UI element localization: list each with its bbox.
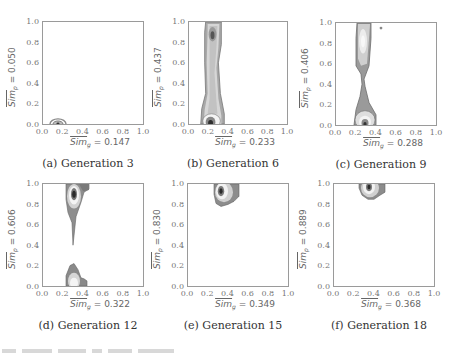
x-tick-label: 0.0: [31, 128, 53, 136]
x-tick-label: 0.6: [237, 290, 259, 298]
density-plot-b: [188, 21, 288, 125]
y-tick-label: 0.6: [163, 59, 185, 67]
y-tick-label: 0.2: [162, 262, 184, 270]
y-tick-label: 0.8: [163, 39, 185, 47]
y-tick-label: 0.6: [162, 221, 184, 229]
x-tick-label: 0.0: [31, 290, 53, 298]
x-tick-label: 0.2: [196, 290, 218, 298]
y-tick-label: 0.6: [17, 221, 39, 229]
x-tick-label: 0.6: [383, 290, 405, 298]
y-axis-label: Simp = 0.437: [153, 47, 164, 107]
y-tick-label: 0.2: [17, 262, 39, 270]
x-tick-label: 1.0: [423, 290, 445, 298]
y-axis-label: Simp = 0.889: [298, 209, 309, 269]
y-tick-label: 0.4: [308, 242, 330, 250]
subfigure-caption: (f) Generation 18: [304, 319, 454, 332]
y-tick-label: 0.8: [17, 39, 39, 47]
density-plot-a: [42, 21, 144, 125]
y-tick-label: 0.4: [163, 80, 185, 88]
y-tick-label: 0.4: [310, 81, 332, 89]
x-tick-label: 0.0: [324, 129, 346, 137]
x-tick-label: 0.6: [92, 128, 114, 136]
x-tick-label: 0.4: [217, 128, 239, 136]
subfigure-caption: (b) Generation 6: [158, 157, 308, 170]
x-tick-label: 0.4: [362, 290, 384, 298]
x-tick-label: 1.0: [425, 129, 447, 137]
x-tick-label: 0.8: [256, 128, 278, 136]
subfigure-caption: (e) Generation 15: [158, 319, 308, 332]
y-tick-label: 1.0: [162, 180, 184, 188]
x-axis-label: Simg = 0.349: [200, 299, 290, 310]
x-tick-label: 0.4: [216, 290, 238, 298]
y-tick-label: 1.0: [163, 18, 185, 26]
y-tick-label: 1.0: [17, 18, 39, 26]
density-plot-d: [42, 183, 144, 287]
y-tick-label: 1.0: [17, 180, 39, 188]
y-tick-label: 0.2: [310, 101, 332, 109]
subfigure-caption: (c) Generation 9: [306, 158, 455, 171]
x-tick-label: 1.0: [276, 128, 298, 136]
x-axis-label: Simg = 0.322: [55, 299, 145, 310]
truncated-figure-caption: [0, 349, 455, 353]
x-axis-label: Simg = 0.147: [55, 137, 145, 148]
x-tick-label: 0.6: [92, 290, 114, 298]
y-tick-label: 0.4: [17, 242, 39, 250]
y-tick-label: 0.2: [308, 262, 330, 270]
y-tick-label: 0.4: [162, 242, 184, 250]
y-tick-label: 1.0: [310, 19, 332, 27]
x-tick-label: 1.0: [132, 290, 154, 298]
x-tick-label: 1.0: [277, 290, 299, 298]
x-tick-label: 0.0: [322, 290, 344, 298]
y-axis-label: Simp = 0.606: [7, 209, 18, 269]
y-tick-label: 0.6: [308, 221, 330, 229]
x-tick-label: 0.4: [71, 128, 93, 136]
x-tick-label: 0.8: [405, 129, 427, 137]
x-tick-label: 0.0: [176, 290, 198, 298]
x-tick-label: 0.4: [364, 129, 386, 137]
x-tick-label: 0.8: [112, 128, 134, 136]
x-tick-label: 0.4: [71, 290, 93, 298]
density-plot-f: [333, 183, 435, 287]
x-tick-label: 0.2: [51, 128, 73, 136]
y-tick-label: 0.8: [308, 201, 330, 209]
x-axis-label: Simg = 0.368: [346, 299, 436, 310]
x-tick-label: 0.2: [342, 290, 364, 298]
x-tick-label: 0.2: [344, 129, 366, 137]
y-tick-label: 0.2: [163, 100, 185, 108]
y-tick-label: 0.8: [17, 201, 39, 209]
density-plot-c: [335, 22, 437, 126]
subfigure-caption: (d) Generation 12: [13, 319, 163, 332]
y-tick-label: 0.8: [162, 201, 184, 209]
y-axis-label: Simp = 0.406: [300, 48, 311, 108]
x-tick-label: 0.2: [197, 128, 219, 136]
density-plot-e: [187, 183, 289, 287]
x-tick-label: 0.6: [385, 129, 407, 137]
x-tick-label: 0.6: [236, 128, 258, 136]
y-tick-label: 0.8: [310, 40, 332, 48]
x-tick-label: 0.8: [403, 290, 425, 298]
x-tick-label: 1.0: [132, 128, 154, 136]
x-tick-label: 0.2: [51, 290, 73, 298]
y-tick-label: 0.2: [17, 100, 39, 108]
y-tick-label: 0.4: [17, 80, 39, 88]
y-tick-label: 0.6: [17, 59, 39, 67]
x-axis-label: Simg = 0.233: [200, 137, 290, 148]
x-axis-label: Simg = 0.288: [348, 138, 438, 149]
y-tick-label: 0.6: [310, 60, 332, 68]
subfigure-caption: (a) Generation 3: [13, 157, 163, 170]
y-axis-label: Simp = 0.830: [152, 209, 163, 269]
x-tick-label: 0.8: [112, 290, 134, 298]
y-axis-label: Simp = 0.050: [7, 47, 18, 107]
x-tick-label: 0.8: [257, 290, 279, 298]
x-tick-label: 0.0: [177, 128, 199, 136]
y-tick-label: 1.0: [308, 180, 330, 188]
